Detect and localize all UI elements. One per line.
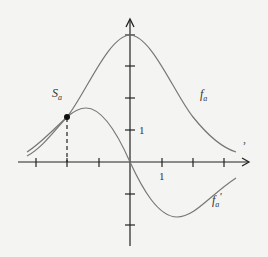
y-axis: 1: [125, 19, 145, 246]
sa-point: [64, 114, 70, 120]
stray-comma: ,: [243, 132, 246, 146]
fa-label: fa: [200, 87, 207, 103]
sa-label: Sa: [52, 86, 62, 102]
y-tick-label-1: 1: [139, 124, 145, 136]
function-graph: 1 1 Sa fa fa' ,: [0, 0, 268, 257]
x-tick-label-1: 1: [159, 170, 165, 182]
